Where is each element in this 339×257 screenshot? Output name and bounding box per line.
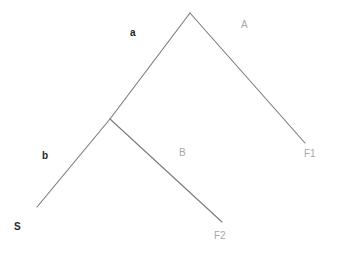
branch-label-a: a [130, 28, 136, 38]
branch-label-b-upper: B [179, 148, 186, 158]
branch-line-b [37, 119, 110, 207]
branch-line-a-upper [190, 13, 305, 143]
tree-branches-group [0, 0, 339, 257]
tip-label-f1: F1 [304, 149, 316, 159]
tree-diagram-canvas: a b S A B F1 F2 [0, 0, 339, 257]
branch-line-b-upper [110, 119, 222, 222]
tip-label-f2: F2 [214, 231, 226, 241]
branch-label-a-upper: A [241, 20, 248, 30]
tip-label-s: S [14, 222, 21, 232]
branch-label-b: b [42, 151, 48, 161]
branch-line-a [110, 13, 190, 119]
